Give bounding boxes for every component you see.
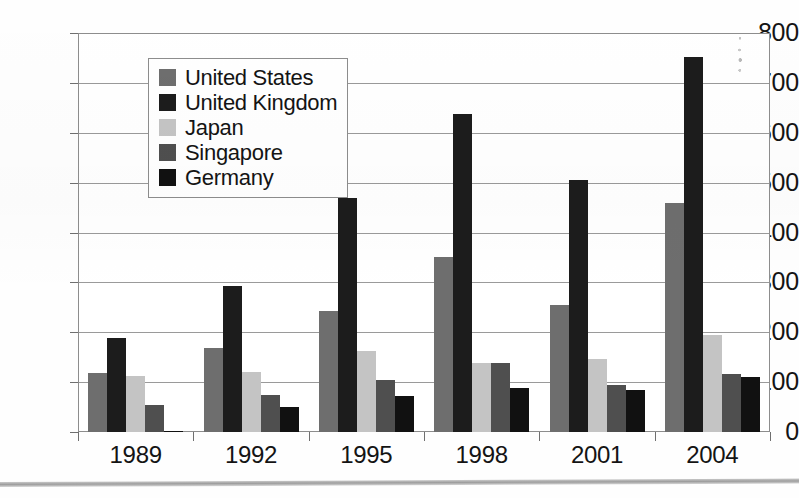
bar-united-states-2001 <box>550 305 569 432</box>
y-tick-mark-500 <box>70 183 78 184</box>
bar-united-kingdom-1989 <box>107 338 126 432</box>
x-tick-mark-5 <box>655 432 656 441</box>
bar-united-states-1995 <box>319 311 338 432</box>
y-tick-mark-200 <box>70 332 78 333</box>
bar-singapore-1995 <box>376 380 395 432</box>
legend-swatch-icon <box>159 69 176 86</box>
y-tick-mark-800 <box>70 33 78 34</box>
bar-singapore-1998 <box>491 363 510 432</box>
y-tick-mark-600 <box>70 133 78 134</box>
legend-label: Singapore <box>185 142 283 164</box>
chart-legend: United StatesUnited KingdomJapanSingapor… <box>148 58 348 198</box>
bar-united-kingdom-1992 <box>223 286 242 432</box>
bar-united-states-1989 <box>88 373 107 432</box>
bar-japan-1995 <box>357 351 376 432</box>
y-tick-mark-300 <box>70 282 78 283</box>
legend-swatch-icon <box>159 169 176 186</box>
x-tick-label-1989: 1989 <box>78 443 193 467</box>
x-tick-mark-4 <box>539 432 540 441</box>
legend-label: United Kingdom <box>185 92 337 114</box>
legend-label: United States <box>185 67 313 89</box>
bar-japan-1989 <box>126 376 145 432</box>
bar-singapore-2004 <box>722 374 741 432</box>
bar-germany-1995 <box>395 396 414 432</box>
legend-item-united-kingdom: United Kingdom <box>159 90 337 115</box>
x-tick-label-2001: 2001 <box>539 443 654 467</box>
bar-united-kingdom-2004 <box>684 57 703 432</box>
y-tick-mark-400 <box>70 233 78 234</box>
bar-japan-1992 <box>242 372 261 432</box>
bar-united-states-1992 <box>204 348 223 432</box>
scan-artifact-speck <box>737 36 743 76</box>
bar-germany-1992 <box>280 407 299 432</box>
bar-japan-2001 <box>588 359 607 432</box>
bar-japan-1998 <box>472 363 491 432</box>
legend-item-japan: Japan <box>159 115 337 140</box>
bar-germany-2004 <box>741 377 760 432</box>
bar-united-states-1998 <box>434 257 453 432</box>
x-tick-mark-1 <box>193 432 194 441</box>
y-tick-mark-100 <box>70 382 78 383</box>
bar-germany-1998 <box>510 388 529 432</box>
bar-germany-1989 <box>164 431 183 433</box>
legend-item-singapore: Singapore <box>159 140 337 165</box>
legend-swatch-icon <box>159 119 176 136</box>
legend-label: Japan <box>185 117 243 139</box>
page-edge-rule <box>0 479 799 487</box>
x-tick-mark-6 <box>770 432 771 441</box>
x-tick-label-1998: 1998 <box>424 443 539 467</box>
x-tick-mark-2 <box>309 432 310 441</box>
bar-singapore-2001 <box>607 385 626 432</box>
x-tick-mark-0 <box>78 432 79 441</box>
bar-united-states-2004 <box>665 203 684 432</box>
bar-singapore-1989 <box>145 405 164 432</box>
x-tick-label-2004: 2004 <box>655 443 770 467</box>
x-tick-label-1992: 1992 <box>193 443 308 467</box>
legend-swatch-icon <box>159 144 176 161</box>
y-tick-mark-700 <box>70 83 78 84</box>
bar-united-kingdom-1998 <box>453 114 472 432</box>
x-tick-mark-3 <box>424 432 425 441</box>
legend-label: Germany <box>185 167 273 189</box>
x-tick-label-1995: 1995 <box>309 443 424 467</box>
legend-swatch-icon <box>159 94 176 111</box>
y-tick-mark-0 <box>70 432 78 433</box>
chart-figure: 0100200300400500600700800 19891992199519… <box>0 0 799 498</box>
legend-item-united-states: United States <box>159 65 337 90</box>
bar-japan-2004 <box>703 335 722 432</box>
bar-united-kingdom-1995 <box>338 198 357 432</box>
bar-germany-2001 <box>626 390 645 432</box>
legend-item-germany: Germany <box>159 165 337 190</box>
bar-singapore-1992 <box>261 395 280 432</box>
bar-united-kingdom-2001 <box>569 180 588 432</box>
